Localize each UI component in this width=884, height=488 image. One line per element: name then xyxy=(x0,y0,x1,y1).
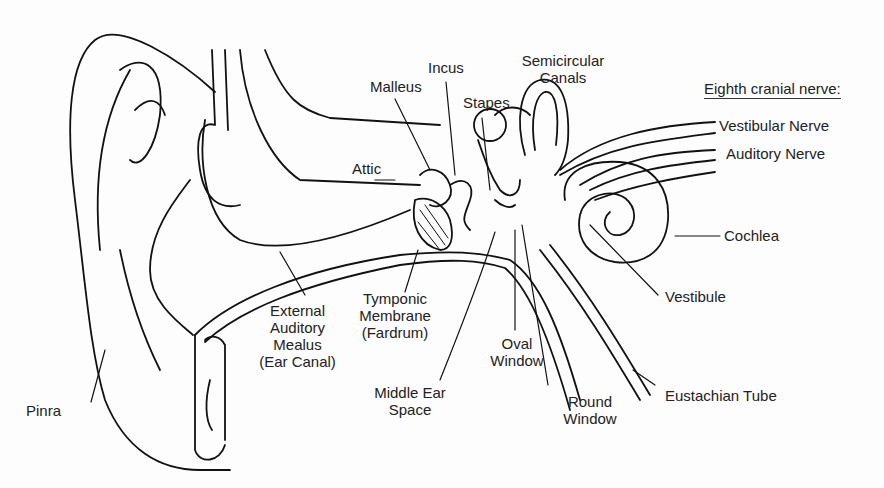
label-canal-line1: External xyxy=(250,302,345,319)
label-external-auditory-meatus: External Auditory Mealus (Ear Canal) xyxy=(250,302,345,370)
nerve-header-text: Eighth cranial nerve: xyxy=(704,80,841,99)
label-auditory-nerve: Auditory Nerve xyxy=(726,145,825,162)
label-oval-window-line1: Oval xyxy=(477,335,557,352)
label-tympanic-line2: Membrane xyxy=(350,307,440,324)
label-middle-ear-space: Middle Ear Space xyxy=(365,384,455,418)
label-attic: Attic xyxy=(352,160,381,177)
label-stapes: Stapes xyxy=(463,94,510,111)
nerve-header: Eighth cranial nerve: xyxy=(704,80,841,97)
label-tympanic-line3: (Fardrum) xyxy=(350,324,440,341)
label-round-window: Round Window xyxy=(550,393,630,427)
label-pinna: Pinra xyxy=(26,402,61,419)
label-vestibule: Vestibule xyxy=(665,288,726,305)
label-cochlea: Cochlea xyxy=(724,227,779,244)
label-canal-line4: (Ear Canal) xyxy=(250,353,345,370)
label-semicircular-canals: Semicircular Canals xyxy=(513,52,613,86)
label-middle-ear-line2: Space xyxy=(365,401,455,418)
label-tympanic-line1: Tymponic xyxy=(350,290,440,307)
label-middle-ear-line1: Middle Ear xyxy=(365,384,455,401)
label-vestibular-nerve: Vestibular Nerve xyxy=(719,117,829,134)
label-oval-window: Oval Window xyxy=(477,335,557,369)
label-round-window-line2: Window xyxy=(550,410,630,427)
label-incus: Incus xyxy=(428,59,464,76)
ear-anatomy-diagram: Pinra Attic Malleus Incus Stapes Semicir… xyxy=(0,0,884,488)
label-tympanic-membrane: Tymponic Membrane (Fardrum) xyxy=(350,290,440,341)
label-malleus: Malleus xyxy=(370,78,422,95)
label-round-window-line1: Round xyxy=(550,393,630,410)
label-oval-window-line2: Window xyxy=(477,352,557,369)
label-canal-line3: Mealus xyxy=(250,336,345,353)
label-eustachian-tube: Eustachian Tube xyxy=(665,387,777,404)
label-semicircular-line1: Semicircular xyxy=(513,52,613,69)
label-semicircular-line2: Canals xyxy=(513,69,613,86)
label-canal-line2: Auditory xyxy=(250,319,345,336)
